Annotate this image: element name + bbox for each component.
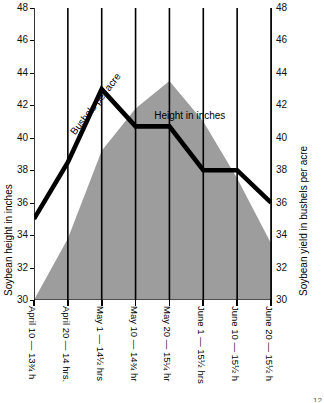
left-axis-tick-48: 48 — [6, 3, 28, 13]
left-axis-tick-30: 30 — [6, 295, 28, 305]
plot-area — [34, 8, 272, 300]
x-axis-label-3: May 10 — 14¾ hr — [129, 306, 140, 382]
right-axis-tick-34: 34 — [276, 230, 300, 240]
right-axis-tick-46: 46 — [276, 35, 300, 45]
left-axis-tickmark — [30, 268, 34, 269]
x-axis-label-0: April 10 — 13¾ h — [27, 306, 38, 379]
soybean-dual-axis-chart: 30323436384042444648 3032343638404244464… — [0, 0, 324, 403]
x-axis-label-5: June 1 — 15½ hrs — [196, 306, 207, 384]
right-axis-tick-42: 42 — [276, 100, 300, 110]
left-axis-tick-40: 40 — [6, 133, 28, 143]
x-axis-label-1: April 20 — 14 hrs. — [61, 306, 72, 382]
x-axis-label-4: May 20 — 15¼ hr — [162, 306, 173, 382]
x-axis-label-2: May 1 — 14½ hrs — [95, 306, 106, 381]
right-axis-title: Soybean yield in bushels per acre — [298, 146, 309, 296]
right-axis-tick-32: 32 — [276, 263, 300, 273]
x-axis-tickmark — [67, 300, 69, 306]
x-axis-tickmark — [270, 300, 272, 306]
area-series-height-in-inches — [34, 81, 271, 300]
x-axis-tickmark — [202, 300, 204, 306]
left-axis-tick-38: 38 — [6, 165, 28, 175]
right-axis-tick-48: 48 — [276, 3, 300, 13]
right-axis-tick-40: 40 — [276, 133, 300, 143]
left-axis-title: Soybean height in inches — [3, 184, 14, 296]
left-axis-tick-44: 44 — [6, 68, 28, 78]
x-axis-tickmark — [101, 300, 103, 306]
left-axis-tick-42: 42 — [6, 100, 28, 110]
x-axis-label-6: June 10 — 15½ h — [230, 306, 241, 381]
left-axis-tickmark — [30, 8, 34, 9]
x-axis-label-7: June 20 — 15½ h — [264, 306, 275, 381]
right-axis-tick-44: 44 — [276, 68, 300, 78]
left-axis-tickmark — [30, 40, 34, 41]
right-axis-tick-36: 36 — [276, 198, 300, 208]
chart-canvas — [34, 8, 272, 300]
annotation-height-in-inches: Height in inches — [154, 110, 225, 121]
left-axis-tickmark — [30, 73, 34, 74]
left-axis-tickmark — [30, 170, 34, 171]
x-axis-tickmark — [236, 300, 238, 306]
left-axis-tickmark — [30, 138, 34, 139]
left-axis-tickmark — [30, 203, 34, 204]
x-axis-tickmark — [135, 300, 137, 306]
page-corner-mark: 12 — [313, 396, 322, 402]
left-axis-tickmark — [30, 235, 34, 236]
x-axis-tickmark — [33, 300, 35, 306]
x-axis-tickmark — [169, 300, 171, 306]
left-axis-tick-46: 46 — [6, 35, 28, 45]
right-axis-tick-30: 30 — [276, 295, 300, 305]
right-axis-tick-38: 38 — [276, 165, 300, 175]
left-axis-tickmark — [30, 105, 34, 106]
